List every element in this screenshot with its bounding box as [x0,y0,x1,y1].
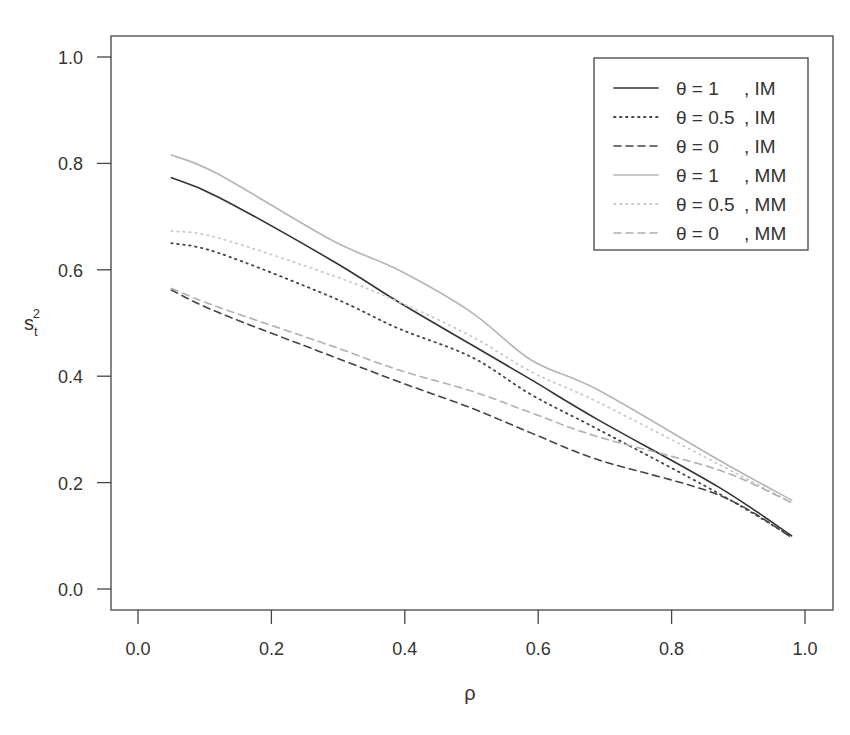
legend-theta: θ = 1 [676,165,719,186]
x-tick-label: 0.2 [259,639,284,659]
legend-method: , IM [744,78,776,99]
legend-method: , MM [744,223,786,244]
legend-label: θ = 1 [676,165,719,186]
legend-label: θ = 0 [676,136,719,157]
x-axis-title: ρ [464,682,475,704]
legend-label: θ = 0 [676,223,719,244]
legend-theta: θ = 1 [676,78,719,99]
x-tick-label: 0.0 [125,639,150,659]
y-axis-title-sup: 2 [33,306,40,321]
y-tick-label: 0.6 [58,261,83,281]
legend-label: θ = 0.5 [676,194,735,215]
legend-theta: θ = 0.5 [676,107,735,128]
y-tick-label: 0.4 [58,367,83,387]
legend-label: θ = 1 [676,78,719,99]
series-line-3 [171,290,791,537]
y-tick-label: 0.2 [58,474,83,494]
legend-theta: θ = 0 [676,223,719,244]
x-tick-label: 0.4 [392,639,417,659]
legend-method: , IM [744,136,776,157]
series-line-5 [171,231,791,503]
y-tick-label: 1.0 [58,48,83,68]
y-axis-title: st2 [24,306,40,339]
x-tick-label: 0.8 [659,639,684,659]
series-line-2 [171,243,791,537]
x-tick-label: 1.0 [792,639,817,659]
legend-theta: θ = 0 [676,136,719,157]
legend: θ = 1, IMθ = 0.5, IMθ = 0, IMθ = 1, MMθ … [594,58,808,250]
line-chart: 0.00.20.40.60.81.0 0.00.20.40.60.81.0 ρ … [0,0,850,735]
legend-method: , IM [744,107,776,128]
y-tick-label: 0.0 [58,580,83,600]
legend-method: , MM [744,194,786,215]
x-axis: 0.00.20.40.60.81.0 [125,610,817,659]
legend-theta: θ = 0.5 [676,194,735,215]
x-tick-label: 0.6 [526,639,551,659]
y-axis-title-sub: t [34,324,38,339]
y-tick-label: 0.8 [58,154,83,174]
legend-method: , MM [744,165,786,186]
y-axis: 0.00.20.40.60.81.0 [58,48,111,600]
legend-label: θ = 0.5 [676,107,735,128]
